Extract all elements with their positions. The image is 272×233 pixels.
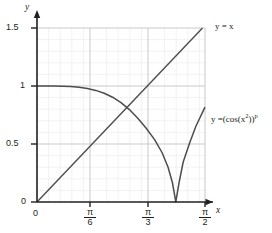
- series-label-line: y = x: [215, 22, 234, 31]
- x-tick-label-0: 0: [33, 209, 38, 218]
- y-tick-label-1-5: 1.5: [6, 23, 19, 32]
- y-tick-label-1: 1: [20, 81, 25, 90]
- y-tick-label-0: 0: [21, 197, 26, 206]
- x-tick-pi2-denominator: 2: [199, 218, 211, 227]
- series-line-y-equals-x: [37, 28, 203, 202]
- x-tick-label-pi-over-2: π 2: [199, 208, 211, 228]
- x-axis-label: x: [216, 206, 220, 216]
- x-tick-label-pi-over-3: π 3: [142, 208, 154, 228]
- x-tick-pi3-denominator: 3: [142, 218, 154, 227]
- x-tick-label-pi-over-6: π 6: [84, 208, 96, 228]
- chart-container: y x 1.5 1 0.5 0 0 π 6 π 3 π 2 y = x y =(…: [0, 0, 272, 233]
- x-tick-pi6-denominator: 6: [84, 218, 96, 227]
- y-tick-label-0-5: 0.5: [6, 139, 19, 148]
- series-label-curve-text: y =(cos(x2))p: [211, 114, 258, 124]
- y-axis-label: y: [25, 3, 29, 13]
- series-label-curve: y =(cos(x2))p: [211, 115, 258, 124]
